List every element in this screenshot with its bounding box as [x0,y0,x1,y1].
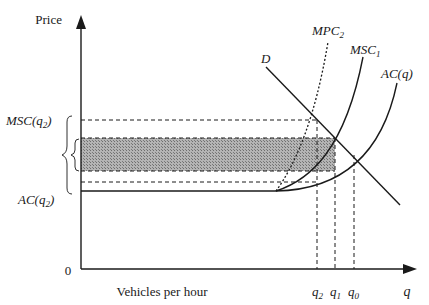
q2-tick-label: q2 [312,284,324,301]
demand-line [266,67,400,205]
q1-tick-label: q1 [330,284,341,301]
msc1-label: MSC1 [349,42,381,59]
y-axis-label: Price [35,12,62,27]
msc-q2-label: MSC(q2) [5,113,52,130]
mpc2-label: MPC2 [311,23,344,40]
q0-tick-label: q0 [348,284,360,301]
ac-label: AC(q) [380,66,413,81]
x-axis-arrow-icon [403,264,417,274]
congestion-diagram: Price 0 Vehicles per hour q MSC(q2) AC(q… [0,0,429,305]
x-axis-var-label: q [404,284,411,299]
y-axis-arrow-icon [76,15,86,29]
origin-label: 0 [65,263,72,278]
demand-label: D [260,51,271,66]
shaded-region [81,138,335,171]
ac-q2-label: AC(q2) [17,192,54,209]
outer-brace-icon [62,116,72,194]
inner-brace-icon [71,139,79,171]
x-axis-label: Vehicles per hour [117,284,209,299]
